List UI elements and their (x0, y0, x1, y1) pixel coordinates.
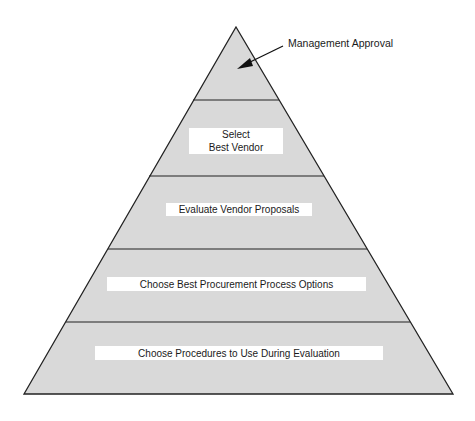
level-5-text: Choose Procedures to Use During Evaluati… (138, 347, 340, 360)
level-2-line-1: Select (222, 128, 250, 141)
level-label-select-best-vendor: Select Best Vendor (189, 128, 283, 154)
callout-label-management-approval: Management Approval (288, 37, 393, 49)
level-3-text: Evaluate Vendor Proposals (179, 203, 300, 216)
level-4-text: Choose Best Procurement Process Options (140, 278, 333, 291)
level-label-choose-best-procurement-process-options: Choose Best Procurement Process Options (107, 277, 366, 291)
level-2-line-2: Best Vendor (209, 141, 263, 154)
level-label-choose-procedures-during-evaluation: Choose Procedures to Use During Evaluati… (95, 346, 383, 360)
procurement-pyramid-diagram: Management Approval Select Best Vendor E… (0, 0, 475, 421)
level-label-evaluate-vendor-proposals: Evaluate Vendor Proposals (166, 203, 312, 216)
